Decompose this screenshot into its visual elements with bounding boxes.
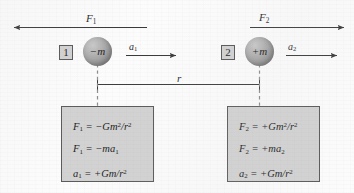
formula-rhs: Gm — [102, 121, 117, 132]
particle-sphere-1: −m — [83, 37, 112, 66]
force-label-F1-sub: 1 — [93, 18, 97, 26]
formula-lhs-sub: 2 — [245, 125, 248, 132]
particle-index-box-2: 2 — [221, 45, 235, 60]
formula-line-F2-gravity: F2 = +Gm2/r2 — [239, 115, 319, 139]
formula-rhs: Gm — [267, 168, 282, 179]
force-label-F1-base: F — [86, 12, 93, 24]
formula-lhs-sub: 1 — [79, 125, 82, 132]
particle-sphere-2: +m — [245, 37, 274, 66]
acceleration-label-a2: a2 — [288, 42, 296, 53]
formula-rhs-sub: 2 — [281, 148, 284, 155]
formula-rhs-sub: 1 — [115, 148, 118, 155]
formula-rhs-tail-sup: 2 — [123, 168, 126, 175]
acceleration-label-a2-sub: 2 — [293, 45, 296, 52]
formula-lhs-sub: 2 — [244, 172, 247, 179]
formula-rhs-tail: /r — [121, 121, 128, 132]
formula-equals: = — [86, 143, 93, 154]
formula-line-F1-newton: F1 = −ma1 — [73, 139, 153, 162]
formula-line-F2-newton: F2 = +ma2 — [239, 139, 319, 162]
formula-line-a1: a1 = +Gm/r2 — [73, 162, 153, 186]
formula-box-left: F1 = −Gm2/r2 F1 = −ma1 a1 = +Gm/r2 — [61, 106, 154, 182]
particle-mass-label-1: −m — [83, 45, 112, 57]
distance-label-r: r — [177, 73, 181, 84]
force-label-F2-base: F — [259, 11, 266, 23]
force-label-F1: F1 — [86, 13, 96, 26]
formula-lhs-sub: 1 — [79, 148, 82, 155]
particle-mass-label-2: +m — [245, 45, 274, 57]
formula-rhs: ma — [102, 143, 115, 154]
formula-rhs-tail-sup: 2 — [128, 121, 131, 128]
formula-equals: = — [252, 121, 259, 132]
formula-rhs: Gm — [101, 168, 116, 179]
force-label-F2: F2 — [259, 12, 269, 25]
formula-rhs-tail-sup: 2 — [289, 168, 292, 175]
formula-equals: = — [252, 143, 259, 154]
formula-equals: = — [86, 121, 93, 132]
formula-lhs-sub: 2 — [245, 148, 248, 155]
formula-rhs-tail: /r — [287, 121, 294, 132]
formula-lhs-sub: 1 — [78, 172, 81, 179]
particle-index-box-1: 1 — [59, 45, 73, 60]
formula-rhs-tail-sup: 2 — [294, 121, 297, 128]
acceleration-label-a1-sub: 1 — [134, 45, 137, 52]
force-label-F2-sub: 2 — [266, 17, 270, 25]
formula-rhs: Gm — [268, 121, 283, 132]
acceleration-label-a1: a1 — [129, 42, 137, 53]
formula-box-right: F2 = +Gm2/r2 F2 = +ma2 a2 = +Gm/r2 — [227, 106, 320, 182]
physics-diagram: F1 F2 a1 a2 r 1 2 −m +m F1 = −Gm2/r2 F1 … — [0, 0, 354, 193]
formula-rhs: ma — [268, 143, 281, 154]
formula-line-a2: a2 = +Gm/r2 — [239, 162, 319, 186]
formula-line-F1-gravity: F1 = −Gm2/r2 — [73, 115, 153, 139]
formula-equals: = — [84, 168, 91, 179]
formula-equals: = — [250, 168, 257, 179]
